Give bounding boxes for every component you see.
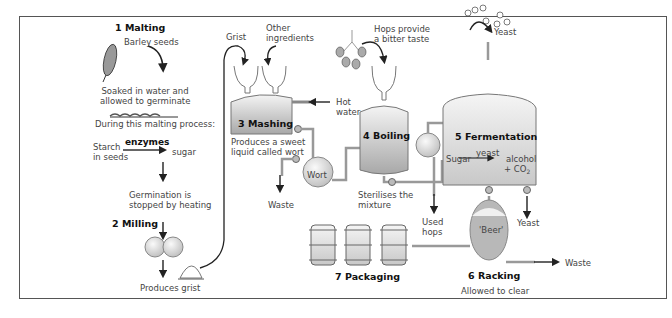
sterilise-text-1: Sterilises the [358, 190, 413, 200]
used-hops-2: hops [422, 227, 442, 237]
mill-rollers-icon [145, 237, 183, 257]
sugar-label: sugar [172, 147, 196, 157]
hops-text-1: Hops provide [374, 24, 430, 34]
sterilise-text-2: mixture [358, 200, 391, 210]
soaked-text-2: allowed to germinate [100, 96, 190, 106]
other-ingredients-1: Other [266, 23, 290, 33]
grist-output-label: Produces grist [140, 283, 200, 293]
grist-pile-icon [180, 266, 202, 278]
germinating-seeds-icon [110, 114, 160, 116]
stage-racking-title: 6 Racking [468, 270, 520, 281]
hop-separator [416, 133, 440, 157]
mash-waste-label: Waste [268, 200, 294, 210]
enzymes-label: enzymes [125, 137, 169, 147]
hops-icon [336, 30, 366, 69]
stage-boiling-title: 4 Boiling [363, 130, 410, 141]
stage-milling-title: 2 Milling [112, 218, 158, 229]
racking-waste-label: Waste [565, 258, 591, 268]
germination-text-2: stopped by heating [129, 200, 212, 210]
used-hops-1: Used [422, 217, 443, 227]
arrow-icon [148, 46, 163, 68]
hot-water-1: Hot [336, 97, 351, 107]
yeast-output-label: Yeast [517, 218, 539, 228]
yeast-input-label: Yeast [494, 27, 516, 37]
barley-label: Barley seeds [124, 37, 179, 47]
starch-label-1: Starch [93, 142, 120, 152]
other-ingredients-2: ingredients [266, 33, 314, 43]
yeast-catalyst-label: yeast [476, 148, 499, 158]
alcohol-label: alcohol [506, 154, 536, 164]
hot-water-2: water [336, 107, 360, 117]
yeast-cells-icon [465, 5, 510, 27]
allowed-to-clear-label: Allowed to clear [461, 286, 529, 296]
beer-label: 'Beer' [479, 225, 503, 235]
malting-process-label: During this malting process: [95, 119, 215, 129]
stage-fermentation-title: 5 Fermentation [455, 131, 537, 142]
barrel-icons [309, 225, 408, 265]
starch-label-2: in seeds [93, 152, 128, 162]
stage-packaging-title: 7 Packaging [335, 271, 400, 282]
grist-label: Grist [226, 32, 246, 42]
wort-label: Wort [307, 170, 327, 180]
germination-text-1: Germination is [129, 190, 191, 200]
ferm-sugar-label: Sugar [446, 154, 471, 164]
co2-label: + CO2 [504, 164, 530, 177]
mash-desc-2: liquid called wort [231, 147, 304, 157]
hops-text-2: a bitter taste [374, 34, 429, 44]
stage-mashing-title: 3 Mashing [238, 118, 293, 129]
stage-malting-title: 1 Malting [115, 22, 165, 33]
soaked-text-1: Soaked in water and [100, 86, 190, 96]
barley-icon [101, 43, 119, 82]
mash-desc-1: Produces a sweet [231, 137, 305, 147]
